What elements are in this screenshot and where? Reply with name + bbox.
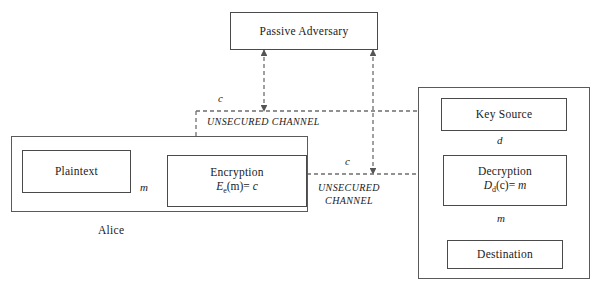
encryption-formula: Ee(m)= c — [216, 180, 258, 196]
encryption-formula-result: c — [253, 180, 258, 192]
alice-caption: Alice — [98, 224, 124, 236]
key-source-label: Key Source — [476, 108, 532, 121]
unsecured-channel-upper-label: UNSECURED CHANNEL — [207, 116, 320, 129]
decryption-formula-arg: (c)= — [496, 179, 515, 191]
passive-adversary-label: Passive Adversary — [260, 25, 349, 38]
node-encryption[interactable]: Encryption Ee(m)= c — [167, 155, 307, 207]
decryption-label: Decryption — [478, 165, 532, 178]
node-passive-adversary[interactable]: Passive Adversary — [230, 12, 378, 50]
encryption-formula-arg: (m)= — [227, 180, 250, 192]
edge-label-c-main: c — [345, 155, 350, 167]
node-decryption[interactable]: Decryption Dd(c)= m — [443, 155, 567, 206]
decryption-formula-result: m — [518, 179, 526, 191]
destination-label: Destination — [477, 248, 533, 261]
decryption-formula: Dd(c)= m — [484, 179, 527, 195]
node-destination[interactable]: Destination — [447, 240, 563, 269]
cryptography-diagram: Passive Adversary Plaintext Encryption E… — [0, 0, 601, 284]
plaintext-label: Plaintext — [55, 165, 98, 178]
edge-label-d-key: d — [497, 134, 503, 146]
unsecured-channel-lower-line1: UNSECURED — [318, 182, 380, 195]
unsecured-channel-lower-label: UNSECURED CHANNEL — [318, 182, 380, 207]
decryption-formula-fn: D — [484, 179, 492, 191]
edge-label-c-tap: c — [218, 92, 223, 104]
node-plaintext[interactable]: Plaintext — [22, 150, 131, 193]
encryption-label: Encryption — [210, 166, 264, 179]
node-key-source[interactable]: Key Source — [441, 98, 567, 131]
edge-label-m-destination: m — [497, 212, 505, 224]
edge-label-m-plaintext: m — [140, 181, 148, 193]
unsecured-channel-lower-line2: CHANNEL — [318, 195, 380, 208]
